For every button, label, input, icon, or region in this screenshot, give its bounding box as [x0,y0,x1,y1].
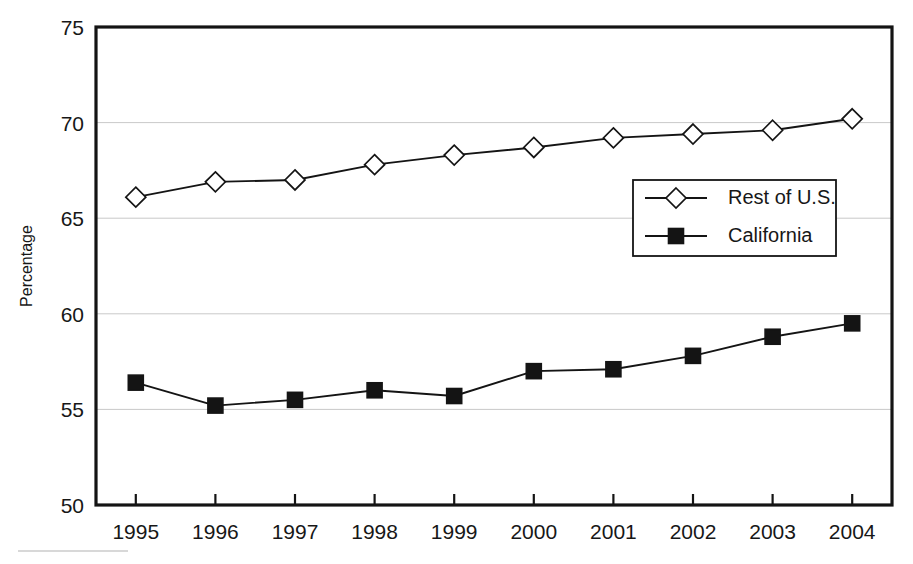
y-axis-title-group: Percentage [18,225,35,307]
data-point-1997 [288,392,303,407]
data-point-2003 [765,329,780,344]
x-tick-label-2003: 2003 [749,520,796,543]
y-tick-label-75: 75 [61,16,84,39]
y-tick-label-50: 50 [61,494,84,517]
chart-container: 505560657075 199519961997199819992000200… [0,0,913,564]
chart-background [0,0,913,564]
data-point-2002 [686,348,701,363]
data-point-1996 [208,398,223,413]
x-tick-label-1995: 1995 [112,520,159,543]
y-axis-title: Percentage [18,225,35,307]
x-tick-label-1997: 1997 [272,520,319,543]
data-point-1995 [128,375,143,390]
y-tick-label-65: 65 [61,207,84,230]
x-tick-label-1999: 1999 [431,520,478,543]
data-point-2001 [606,362,621,377]
legend-label: Rest of U.S. [728,186,836,208]
y-tick-label-60: 60 [61,303,84,326]
legend-label: California [728,224,813,246]
y-tick-label-55: 55 [61,398,84,421]
y-tick-label-70: 70 [61,112,84,135]
data-point-1999 [447,389,462,404]
legend-item-0[interactable]: Rest of U.S. [645,186,836,208]
x-tick-label-1996: 1996 [192,520,239,543]
legend-marker-square-icon [669,229,684,244]
x-tick-label-2001: 2001 [590,520,637,543]
x-tick-label-1998: 1998 [351,520,398,543]
data-point-2000 [526,364,541,379]
chart-legend: Rest of U.S.California [633,180,836,256]
x-tick-label-2002: 2002 [670,520,717,543]
line-chart: 505560657075 199519961997199819992000200… [0,0,913,564]
data-point-1998 [367,383,382,398]
data-point-2004 [845,316,860,331]
x-tick-label-2000: 2000 [510,520,557,543]
x-tick-label-2004: 2004 [829,520,876,543]
